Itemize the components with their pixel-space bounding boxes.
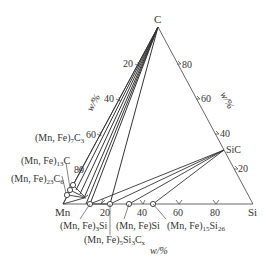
label-mn15si26: (Mn, Fe)15Si26 (167, 220, 225, 233)
ternary-phase-diagram: C Mn Si SiC 20 40 60 80 80 60 40 20 20 4… (0, 0, 273, 267)
tie-lines-carbon (73, 27, 158, 204)
label-mn5si3cx: (Mn, Fe)5Si3Cx (84, 234, 146, 247)
vertex-mn-label: Mn (55, 206, 71, 218)
vertex-c-label: C (154, 13, 161, 25)
left-tick-40: 40 (104, 93, 114, 104)
right-axis-label: w/% (218, 90, 236, 111)
bottom-tick-80: 80 (210, 207, 220, 218)
left-axis-label: w/% (84, 92, 102, 113)
right-tick-80: 80 (182, 59, 192, 70)
label-c7c3: (Mn, Fe)7C3 (35, 132, 85, 145)
label-c23c6: (Mn, Fe)23C6 (11, 173, 64, 186)
left-tick-60: 60 (86, 129, 96, 140)
bottom-tick-20: 20 (100, 207, 110, 218)
right-tick-20: 20 (238, 163, 248, 174)
point-c13c (67, 187, 72, 192)
bottom-axis-label: w/% (150, 245, 168, 256)
point-c23c6 (64, 192, 69, 197)
sic-label: SiC (226, 144, 241, 155)
bottom-tick-60: 60 (173, 207, 183, 218)
label-mnsi: (Mn, Fe)Si (116, 220, 160, 232)
right-tick-60: 60 (201, 93, 211, 104)
bottom-tick-40: 40 (137, 207, 147, 218)
left-tick-80: 80 (74, 164, 84, 175)
label-c13c: (Mn, Fe)13C (21, 155, 71, 168)
right-tick-40: 40 (220, 128, 230, 139)
point-c7c3 (70, 182, 75, 187)
vertex-si-label: Si (248, 206, 257, 218)
left-tick-20: 20 (123, 58, 133, 69)
tie-lines-sic (90, 150, 224, 204)
triangle-frame (63, 27, 253, 204)
label-mn3si: (Mn, Fe)3Si (60, 220, 108, 233)
